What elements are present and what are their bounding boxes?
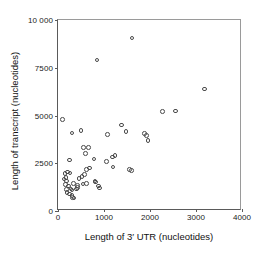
data-point [75, 185, 80, 190]
data-point [160, 109, 165, 114]
data-point [68, 171, 73, 176]
x-tick-label: 2000 [141, 213, 159, 222]
y-tick-label: 0 [48, 207, 53, 216]
y-tick-label: 2500 [35, 159, 53, 168]
data-point [95, 58, 100, 63]
y-tick-label: 10 000 [28, 16, 53, 25]
data-point [86, 145, 91, 150]
data-point [119, 123, 124, 128]
data-point [104, 159, 109, 164]
x-tick-mark [196, 209, 197, 212]
data-point [65, 190, 70, 195]
y-tick-mark [55, 20, 58, 21]
x-tick-label: 0 [56, 213, 61, 222]
x-tick-label: 1000 [95, 213, 113, 222]
y-tick-mark [55, 68, 58, 69]
data-point [146, 138, 151, 143]
data-point [92, 157, 97, 162]
x-tick-mark [104, 209, 105, 212]
data-point [113, 153, 118, 158]
y-tick-mark [55, 163, 58, 164]
data-point [71, 181, 76, 186]
data-point [129, 168, 134, 173]
y-axis-title: Length of transcript (nucleotides) [9, 26, 23, 217]
x-tick-mark [242, 209, 243, 212]
x-tick-mark [150, 209, 151, 212]
x-tick-label: 4000 [233, 213, 251, 222]
data-point [202, 87, 207, 92]
plot-area: 025005000750010 000 01000200030004000 [57, 19, 241, 210]
data-point [79, 128, 84, 133]
data-point [111, 165, 116, 170]
data-point [67, 158, 72, 163]
data-point [77, 176, 82, 181]
data-point [60, 117, 65, 122]
scatter-plot-figure: 025005000750010 000 01000200030004000 Le… [0, 0, 267, 255]
data-point [70, 131, 75, 136]
data-point [83, 151, 88, 156]
data-point [124, 129, 129, 134]
data-point [84, 181, 89, 186]
data-point [105, 132, 110, 137]
y-tick-mark [55, 116, 58, 117]
data-point [130, 36, 135, 41]
x-tick-mark [58, 209, 59, 212]
data-point [72, 196, 77, 201]
y-tick-label: 5000 [35, 111, 53, 120]
x-axis-title: Length of 3′ UTR (nucleotides) [57, 231, 241, 242]
data-point [84, 167, 89, 172]
x-tick-label: 3000 [187, 213, 205, 222]
y-tick-label: 7500 [35, 63, 53, 72]
data-point [173, 109, 178, 114]
